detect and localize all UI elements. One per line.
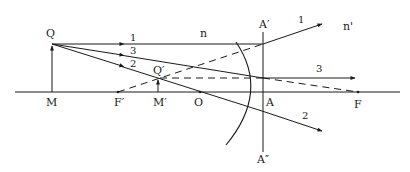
label-medium-n-prime: n' (343, 20, 353, 33)
label-ray-2: 2 (130, 58, 136, 69)
ray-1 (52, 24, 322, 44)
label-A-double-prime: A″ (256, 153, 269, 166)
label-M: M (46, 96, 57, 109)
label-ray-3: 3 (130, 45, 136, 56)
label-ray-1: 1 (130, 32, 136, 43)
label-A: A (265, 96, 275, 109)
label-F-prime: F′ (114, 96, 125, 109)
label-F: F (354, 98, 362, 111)
optics-diagram: Q M F′ M′ Q′ O A F A′ A″ n n' 1 3 2 1 3 … (0, 0, 410, 172)
label-Q: Q (46, 27, 55, 40)
f-prime-dot (117, 91, 120, 94)
spherical-surface-arc (226, 42, 251, 145)
dashed-fprime-to-aprime (118, 44, 263, 92)
label-Q-prime: Q′ (153, 64, 165, 77)
f-dot (357, 91, 360, 94)
ray-3 (52, 44, 355, 78)
label-ray-3-out: 3 (316, 63, 322, 74)
label-ray-1-out: 1 (298, 14, 304, 25)
label-A-prime: A′ (258, 18, 270, 31)
label-ray-2-out: 2 (302, 110, 308, 121)
o-dot (199, 91, 202, 94)
label-O: O (194, 96, 203, 109)
label-M-prime: M′ (153, 96, 167, 109)
label-medium-n: n (200, 27, 207, 40)
dashed-to-f (263, 78, 358, 92)
ray-2 (52, 44, 322, 131)
